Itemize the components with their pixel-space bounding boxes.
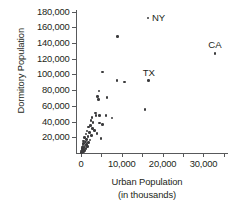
data-point [96, 132, 99, 135]
data-point [90, 134, 93, 137]
data-point [98, 90, 101, 93]
y-axis-tick: 100,000 [72, 74, 76, 75]
y-axis-tick-label: 160,000 [37, 21, 70, 32]
data-point [98, 114, 101, 117]
x-axis-minor-tick [183, 153, 184, 157]
y-axis-title: Dormitory Population [16, 0, 25, 146]
y-axis-tick-label: 60,000 [42, 100, 69, 111]
y-axis-tick: 60,000 [72, 106, 76, 107]
data-point [87, 126, 90, 129]
data-point [97, 98, 100, 101]
data-point [80, 151, 83, 154]
y-axis-tick: 20,000 [72, 137, 76, 138]
data-point [105, 114, 108, 117]
x-axis-title-main: Urban Population [72, 176, 222, 189]
x-axis-spine [76, 153, 228, 154]
y-axis-tick: 80,000 [72, 90, 76, 91]
data-point [144, 108, 147, 111]
x-axis-tick-label: 30,000 [190, 158, 217, 169]
x-axis-tick: 10,000 [122, 153, 123, 157]
y-axis-tick-label: 180,000 [37, 6, 70, 17]
y-axis-tick-label: 100,000 [37, 68, 70, 79]
data-point [106, 96, 109, 99]
y-axis-tick-label: 20,000 [42, 131, 69, 142]
y-axis-tick-label: 80,000 [42, 84, 69, 95]
y-axis-tick: 180,000 [72, 12, 76, 13]
data-point [116, 79, 119, 82]
data-point [93, 129, 96, 132]
x-axis-tick-label: 0 [78, 158, 83, 169]
x-axis-title-units: (in thousands) [72, 189, 222, 202]
data-point [123, 81, 126, 84]
y-axis-tick: 40,000 [72, 122, 76, 123]
y-axis-tick: 140,000 [72, 43, 76, 44]
data-point [101, 71, 104, 74]
x-axis-minor-tick [142, 153, 143, 157]
data-point-ny [147, 17, 150, 20]
x-axis-tick-label: 20,000 [149, 158, 176, 169]
y-axis-tick-label: 120,000 [37, 53, 70, 64]
y-axis-tick-label: 140,000 [37, 37, 70, 48]
plot-area: 20,00040,00060,00080,000100,000120,00014… [76, 10, 228, 153]
data-point-label-ca: CA [208, 40, 221, 50]
y-axis-tick: 160,000 [72, 27, 76, 28]
x-axis-title: Urban Population (in thousands) [72, 176, 222, 201]
data-point-label-ny: NY [152, 13, 165, 23]
data-point-tx [147, 79, 150, 82]
data-point [111, 117, 114, 120]
x-axis-tick: 30,000 [203, 153, 204, 157]
x-axis-minor-tick [224, 153, 225, 157]
data-point-label-tx: TX [143, 68, 155, 78]
x-axis-tick: 20,000 [163, 153, 164, 157]
y-axis-tick: 120,000 [72, 59, 76, 60]
x-axis-minor-tick [101, 153, 102, 157]
y-axis-tick-label: 40,000 [42, 116, 69, 127]
data-point [95, 114, 98, 117]
data-point [116, 35, 119, 38]
data-point [101, 123, 104, 126]
x-axis-tick-label: 10,000 [108, 158, 135, 169]
data-point [100, 137, 103, 140]
data-point [92, 121, 95, 124]
x-axis-tick: 0 [81, 153, 82, 157]
scatter-chart: Dormitory Population 20,00040,00060,0008… [0, 0, 235, 208]
data-point-ca [214, 52, 217, 55]
